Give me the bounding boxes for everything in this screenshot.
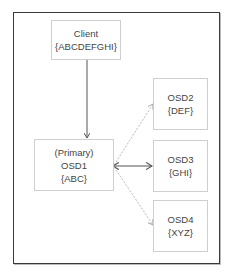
node-osd1-data: {ABC} (61, 172, 87, 185)
edge-osd1-osd4 (114, 167, 153, 225)
node-client-data: {ABCDEFGHI} (55, 40, 117, 53)
node-osd3-data: {GHI} (169, 166, 192, 179)
node-client: Client {ABCDEFGHI} (51, 20, 121, 60)
node-osd2: OSD2 {DEF} (153, 78, 208, 130)
edge-osd1-osd2 (114, 104, 153, 165)
node-osd3: OSD3 {GHI} (153, 140, 208, 192)
node-osd1-role: (Primary) (54, 146, 93, 159)
node-osd2-label: OSD2 (168, 91, 194, 104)
node-osd2-data: {DEF} (168, 104, 193, 117)
node-osd4-data: {XYZ} (168, 226, 193, 239)
node-osd4-label: OSD4 (168, 213, 194, 226)
node-osd4: OSD4 {XYZ} (153, 200, 208, 252)
node-osd1-primary: (Primary) OSD1 {ABC} (34, 139, 114, 191)
node-osd3-label: OSD3 (168, 153, 194, 166)
node-osd1-label: OSD1 (61, 159, 87, 172)
node-client-label: Client (74, 27, 98, 40)
